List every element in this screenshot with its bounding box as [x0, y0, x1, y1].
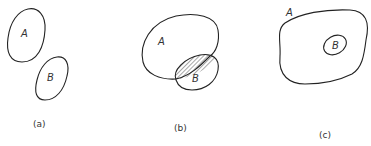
caption-b: (b)	[174, 123, 187, 133]
set-b-label: B	[192, 73, 199, 84]
panel-b: A B (b)	[140, 15, 219, 133]
set-a-label: A	[157, 36, 165, 47]
set-b-label: B	[47, 72, 54, 83]
set-a-label: A	[20, 28, 28, 39]
caption-c: (c)	[319, 130, 331, 140]
panel-a: A B (a)	[8, 9, 68, 129]
caption-a: (a)	[33, 119, 46, 129]
set-a-label: A	[285, 7, 293, 18]
set-b-label: B	[332, 40, 339, 51]
panel-c: A B (c)	[280, 7, 368, 140]
venn-diagram-figure: A B (a) A B (b) A B (c)	[0, 0, 371, 146]
intersection-hatch	[140, 15, 219, 79]
